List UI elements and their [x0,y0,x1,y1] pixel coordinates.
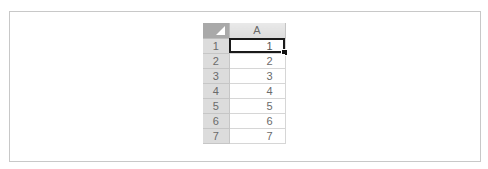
row-header-2[interactable]: 2 [203,53,229,68]
cell-value: 1 [266,40,272,52]
cell-a6[interactable]: 6 [229,113,285,128]
table-row: 7 7 [203,128,285,143]
cell-a3[interactable]: 3 [229,68,285,83]
table-row: 1 1 [203,38,285,53]
cell-a4[interactable]: 4 [229,83,285,98]
cell-a5[interactable]: 5 [229,98,285,113]
row-header-7[interactable]: 7 [203,128,229,143]
cell-a2[interactable]: 2 [229,53,285,68]
table-row: 6 6 [203,113,285,128]
table-row: 5 5 [203,98,285,113]
row-header-4[interactable]: 4 [203,83,229,98]
row-header-6[interactable]: 6 [203,113,229,128]
table-row: 2 2 [203,53,285,68]
spreadsheet-grid: A 1 1 2 2 3 3 4 4 5 5 6 6 7 7 [203,23,286,144]
row-header-3[interactable]: 3 [203,68,229,83]
cell-a1[interactable]: 1 [229,38,285,53]
row-header-5[interactable]: 5 [203,98,229,113]
column-header-row: A [203,23,285,38]
select-all-triangle-icon [216,26,225,35]
cell-a7[interactable]: 7 [229,128,285,143]
table-row: 4 4 [203,83,285,98]
row-header-1[interactable]: 1 [203,38,229,53]
table-row: 3 3 [203,68,285,83]
column-header-a[interactable]: A [229,23,285,38]
select-all-button[interactable] [203,23,229,38]
